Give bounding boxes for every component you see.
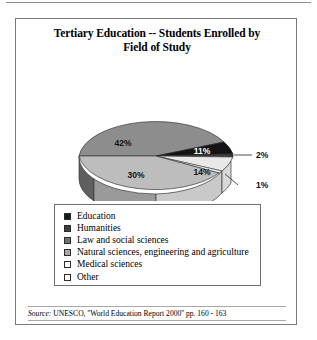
legend-label-law-and-social-sciences: Law and social sciences — [77, 235, 169, 246]
chart-title-line-1: Tertiary Education -- Students Enrolled … — [26, 26, 288, 40]
pie-label-medical: 30% — [127, 170, 144, 180]
legend-swatch-humanities — [64, 225, 71, 232]
figure-container: Tertiary Education -- Students Enrolled … — [15, 18, 297, 325]
pie-label-other: 42% — [114, 138, 131, 148]
legend-item-other: Other — [64, 271, 260, 283]
legend-swatch-other — [64, 274, 71, 281]
page-top-rule — [6, 2, 311, 3]
source-label: Source: — [28, 309, 51, 318]
chart-legend: Education Humanities Law and social scie… — [54, 204, 261, 286]
pie-label-education: 11% — [194, 146, 211, 156]
pie-chart: 42% 11% 14% 30% 2% 1% — [16, 61, 297, 201]
source-citation: UNESCO, ''World Education Report 2000'' … — [51, 309, 226, 318]
legend-label-education: Education — [77, 211, 116, 222]
legend-item-law-and-social-sciences: Law and social sciences — [64, 234, 260, 246]
legend-label-natural-sciences: Natural sciences, engineering and agricu… — [77, 247, 249, 258]
source-divider-top — [28, 306, 286, 307]
legend-swatch-natural-sciences — [64, 249, 71, 256]
chart-title: Tertiary Education -- Students Enrolled … — [26, 26, 288, 54]
legend-label-humanities: Humanities — [77, 223, 121, 234]
pie-chart-svg: 42% 11% 14% 30% 2% 1% — [16, 61, 297, 201]
legend-item-education: Education — [64, 210, 260, 222]
legend-item-humanities: Humanities — [64, 222, 260, 234]
source-divider-bottom — [28, 320, 286, 321]
chart-title-line-2: Field of Study — [26, 40, 288, 54]
source-note: Source: UNESCO, ''World Education Report… — [28, 309, 290, 319]
legend-swatch-law-and-social-sciences — [64, 237, 71, 244]
legend-item-medical-sciences: Medical sciences — [64, 259, 260, 271]
legend-label-other: Other — [77, 272, 99, 283]
legend-label-medical-sciences: Medical sciences — [77, 259, 142, 270]
legend-swatch-medical-sciences — [64, 261, 71, 268]
legend-item-natural-sciences: Natural sciences, engineering and agricu… — [64, 247, 260, 259]
pie-label-law: 1% — [256, 180, 269, 190]
legend-swatch-education — [64, 213, 71, 220]
pie-label-humanities: 2% — [256, 150, 269, 160]
pie-label-natural: 14% — [193, 167, 210, 177]
